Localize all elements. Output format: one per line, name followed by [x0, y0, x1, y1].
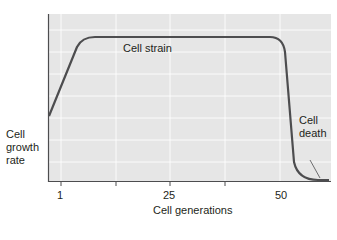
x-tick-label-25: 25 — [163, 189, 175, 202]
x-ticks — [61, 182, 225, 186]
annotation-cell-death: Cell death — [299, 114, 327, 140]
x-tick-label-1: 1 — [57, 189, 63, 202]
y-axis-label: Cell growth rate — [6, 128, 39, 167]
x-axis-label: Cell generations — [153, 204, 233, 217]
annotation-cell-strain: Cell strain — [123, 42, 172, 55]
x-tick-label-50: 50 — [275, 189, 287, 202]
